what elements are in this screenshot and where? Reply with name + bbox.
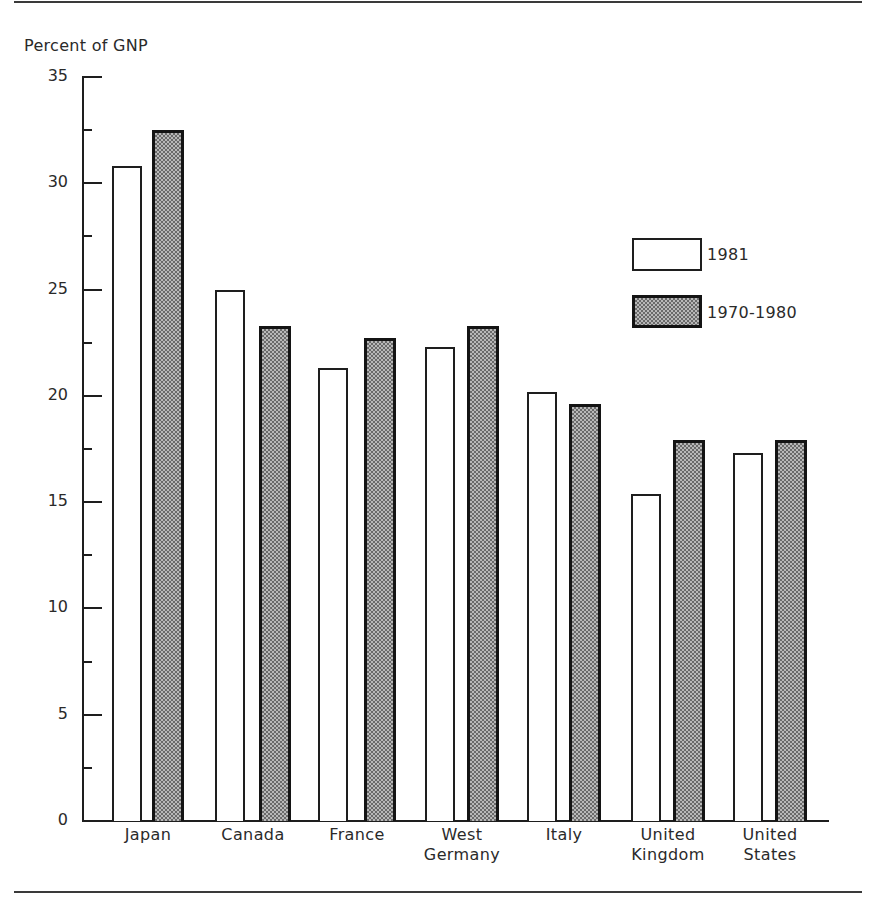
y-major-tick	[82, 607, 102, 609]
y-tick-label: 30	[28, 174, 68, 190]
bar-canada-1981	[215, 290, 245, 821]
y-major-tick	[82, 820, 102, 822]
y-minor-tick	[82, 235, 92, 237]
x-category-label-line: Germany	[407, 845, 517, 865]
y-tick-label: 10	[28, 599, 68, 615]
x-category-label: UnitedStates	[715, 825, 825, 865]
y-minor-tick	[82, 661, 92, 663]
x-category-label: UnitedKingdom	[613, 825, 723, 865]
x-category-label-line: France	[302, 825, 412, 845]
bar-france-1981	[318, 368, 348, 821]
legend-swatch-1970-1980	[632, 295, 702, 328]
x-category-label: Italy	[509, 825, 619, 845]
y-major-tick	[82, 289, 102, 291]
x-category-label: Japan	[93, 825, 203, 845]
x-category-label-line: Kingdom	[613, 845, 723, 865]
x-category-label-line: Canada	[198, 825, 308, 845]
top-rule	[14, 1, 862, 3]
y-tick-label: 15	[28, 493, 68, 509]
bar-canada-1970-1980	[259, 326, 291, 821]
y-major-tick	[82, 76, 102, 78]
y-axis-label: Percent of GNP	[24, 36, 148, 55]
bar-italy-1981	[527, 392, 557, 821]
x-category-label-line: States	[715, 845, 825, 865]
legend-label-1981: 1981	[707, 245, 749, 264]
y-tick-label: 25	[28, 281, 68, 297]
y-minor-tick	[82, 129, 92, 131]
y-major-tick	[82, 182, 102, 184]
y-tick-label: 5	[28, 706, 68, 722]
y-minor-tick	[82, 767, 92, 769]
bar-united-kingdom-1970-1980	[673, 440, 705, 821]
bar-west-germany-1970-1980	[467, 326, 499, 821]
y-major-tick	[82, 501, 102, 503]
x-category-label-line: Italy	[509, 825, 619, 845]
legend-label-1970-1980: 1970-1980	[707, 303, 797, 322]
y-major-tick	[82, 395, 102, 397]
x-category-label: WestGermany	[407, 825, 517, 865]
bar-united-states-1981	[733, 453, 763, 821]
bar-japan-1970-1980	[152, 130, 184, 821]
y-major-tick	[82, 714, 102, 716]
y-tick-label: 35	[28, 68, 68, 84]
x-category-label: Canada	[198, 825, 308, 845]
bar-france-1970-1980	[364, 338, 396, 821]
bottom-rule	[14, 891, 862, 893]
bar-west-germany-1981	[425, 347, 455, 821]
y-minor-tick	[82, 448, 92, 450]
x-category-label: France	[302, 825, 412, 845]
x-category-label-line: United	[613, 825, 723, 845]
bar-italy-1970-1980	[569, 404, 601, 821]
y-minor-tick	[82, 554, 92, 556]
x-category-label-line: United	[715, 825, 825, 845]
bar-united-kingdom-1981	[631, 494, 661, 821]
y-minor-tick	[82, 342, 92, 344]
legend-swatch-1981	[632, 238, 702, 271]
bar-japan-1981	[112, 166, 142, 821]
x-category-label-line: Japan	[93, 825, 203, 845]
y-tick-label: 20	[28, 387, 68, 403]
x-axis-line	[82, 820, 829, 822]
bar-united-states-1970-1980	[775, 440, 807, 821]
x-category-label-line: West	[407, 825, 517, 845]
y-tick-label: 0	[28, 812, 68, 828]
